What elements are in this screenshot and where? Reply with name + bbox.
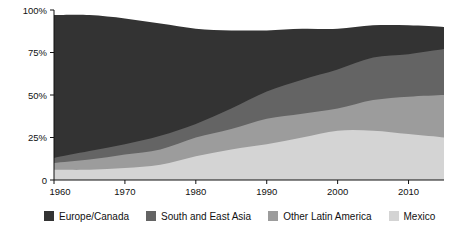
x-tick-label-1990: 1990: [256, 186, 277, 197]
legend-item-mexico[interactable]: Mexico: [389, 211, 436, 222]
y-tick-label-75: 75%: [28, 47, 48, 58]
area-bands: [54, 15, 444, 180]
legend-item-europe-canada[interactable]: Europe/Canada: [44, 211, 129, 222]
y-tick-label-100: 100%: [23, 5, 48, 16]
legend-label-mexico: Mexico: [404, 211, 436, 222]
plot-area: 100%75%50%25%0 196019701980199020002010: [0, 0, 459, 200]
legend-swatch-europe-canada: [44, 211, 54, 221]
legend-swatch-other-latin-america: [268, 211, 278, 221]
legend-label-europe-canada: Europe/Canada: [59, 211, 129, 222]
x-axis-ticks: [54, 180, 409, 184]
x-tick-label-2000: 2000: [327, 186, 348, 197]
chart-legend: Europe/Canada South and East Asia Other …: [0, 203, 459, 229]
legend-item-other-latin-america[interactable]: Other Latin America: [268, 211, 371, 222]
x-tick-label-1980: 1980: [185, 186, 206, 197]
y-axis-tick-labels: 100%75%50%25%0: [23, 5, 48, 186]
x-tick-label-1960: 1960: [49, 186, 70, 197]
x-tick-label-1970: 1970: [114, 186, 135, 197]
y-tick-label-25: 25%: [28, 132, 48, 143]
stacked-area-chart-figure: 100%75%50%25%0 196019701980199020002010 …: [0, 0, 459, 234]
chart-svg: 100%75%50%25%0 196019701980199020002010: [0, 0, 459, 200]
y-tick-label-50: 50%: [28, 90, 48, 101]
x-axis-tick-labels: 196019701980199020002010: [49, 186, 419, 197]
y-axis-ticks: [50, 10, 54, 180]
y-tick-label-0: 0: [42, 175, 47, 186]
legend-label-south-and-east-asia: South and East Asia: [161, 211, 251, 222]
legend-swatch-south-and-east-asia: [146, 211, 156, 221]
legend-label-other-latin-america: Other Latin America: [283, 211, 371, 222]
legend-swatch-mexico: [389, 211, 399, 221]
legend-item-south-and-east-asia[interactable]: South and East Asia: [146, 211, 251, 222]
x-tick-label-2010: 2010: [398, 186, 419, 197]
